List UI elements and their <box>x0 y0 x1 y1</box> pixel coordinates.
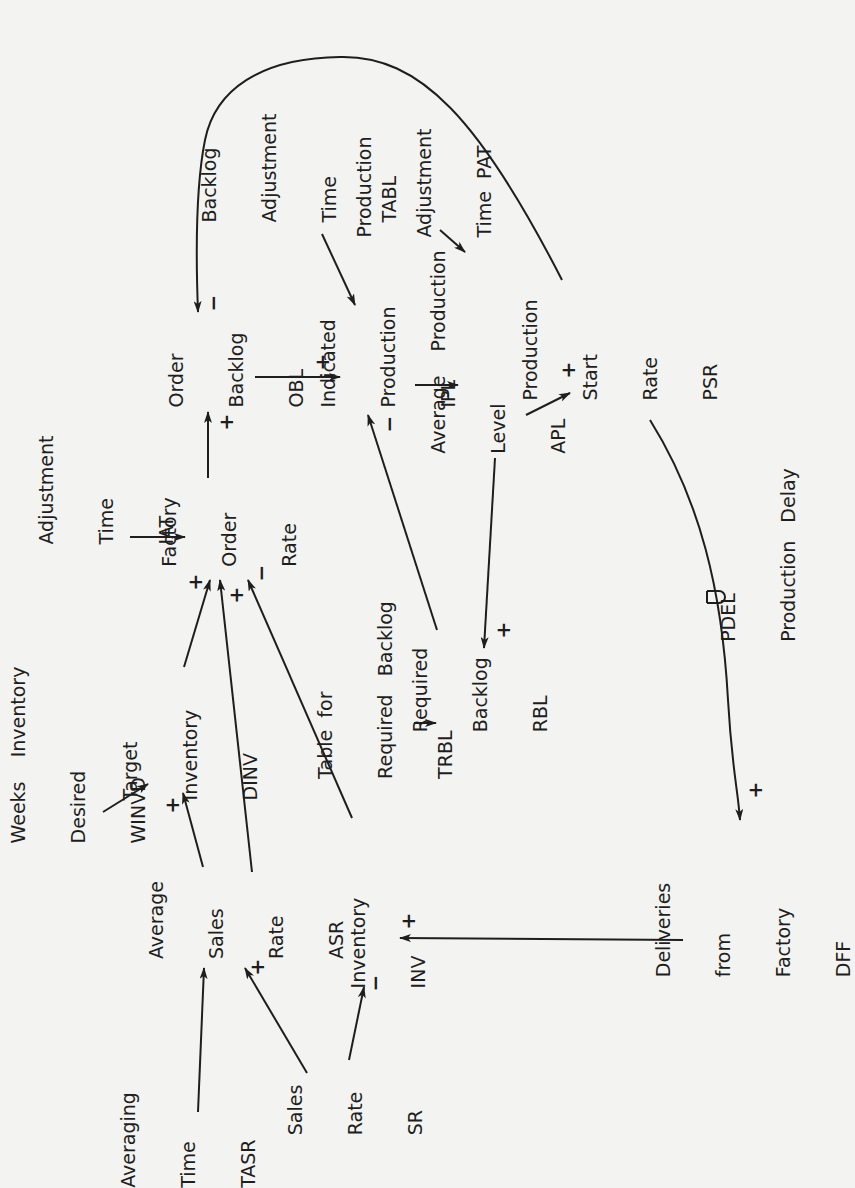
arrow-asr-to-dinv <box>183 793 203 867</box>
sign-inv-to-for: − <box>251 565 271 582</box>
node-line: INV <box>408 898 428 989</box>
node-line: from <box>713 883 733 978</box>
node-line: Adjustment <box>36 435 56 544</box>
node-line: PSR <box>700 299 720 400</box>
sign-rbl-to-ipl: − <box>379 416 399 433</box>
node-line: Target <box>120 710 140 801</box>
sign-dinv-to-for: + <box>185 574 205 591</box>
node-line: RBL <box>530 648 550 733</box>
node-required-backlog-rbl: Required Backlog RBL <box>370 648 570 733</box>
node-line: Rate <box>640 299 660 400</box>
node-line: Order <box>166 332 186 407</box>
node-line: DFF <box>833 883 853 978</box>
node-line: Time <box>96 435 116 544</box>
sign-asr-to-for: + <box>226 587 246 604</box>
node-line: Production <box>520 299 540 400</box>
node-line: PDEL <box>718 468 738 642</box>
sign-sr-to-inv: − <box>365 975 385 992</box>
node-line: Rate <box>279 497 299 566</box>
node-line: Start <box>580 299 600 400</box>
sign-obl-to-ipl: + <box>312 354 332 371</box>
node-line: Required <box>410 648 430 733</box>
node-line: Average <box>146 881 166 959</box>
sign-asr-to-dinv: + <box>162 797 182 814</box>
node-line: Factory <box>159 497 179 566</box>
sign-for-to-obl: + <box>216 414 236 431</box>
arrow-sr-to-asr <box>245 968 307 1073</box>
node-line: Backlog <box>470 648 490 733</box>
node-line: Rate <box>345 1085 365 1136</box>
node-line: Sales <box>206 881 226 959</box>
node-line: Rate <box>266 881 286 959</box>
node-production-start-rate-psr: Production Start Rate PSR <box>480 299 740 400</box>
arrow-tabl-to-ipl <box>322 234 355 305</box>
node-line: Average Production <box>428 250 448 453</box>
node-line: DINV <box>240 710 260 801</box>
arrow-dinv-to-factory-order-rate <box>184 580 210 667</box>
node-line: Production <box>354 128 374 237</box>
node-line: Weeks Inventory <box>8 667 28 844</box>
node-line: Sales <box>285 1085 305 1136</box>
node-production-delay-pdel: PDEL Production Delay <box>678 468 818 642</box>
node-line: Time PAT <box>474 128 494 237</box>
sign-apl-to-rbl: + <box>493 622 513 639</box>
sign-psr-to-dff: + <box>745 782 765 799</box>
sign-apl-to-psr: + <box>558 362 578 379</box>
node-line: Adjustment <box>414 128 434 237</box>
node-line: Averaging <box>118 1092 138 1188</box>
node-line: Production Delay <box>778 468 798 642</box>
node-line: Table for <box>315 601 335 779</box>
node-line: Backlog <box>199 113 219 222</box>
node-line: Inventory <box>180 710 200 801</box>
arrow-tasr-to-asr <box>198 968 204 1112</box>
node-line: Adjustment <box>259 113 279 222</box>
node-line: Order <box>219 497 239 566</box>
arrow-apl-to-rbl <box>484 458 495 648</box>
node-line: Deliveries <box>653 883 673 978</box>
node-line: Factory <box>773 883 793 978</box>
node-factory-order-rate: Factory Order Rate <box>119 497 319 566</box>
node-sales-rate-sr: Sales Rate SR <box>245 1085 445 1136</box>
node-target-inventory-dinv: Target Inventory DINV <box>80 710 280 801</box>
node-line: Time <box>178 1092 198 1188</box>
node-production-adjustment-time-pat: Production Adjustment Time PAT <box>314 128 514 237</box>
sign-sr-to-asr: + <box>247 959 267 976</box>
sign-dff-to-inv: + <box>398 913 418 930</box>
node-deliveries-from-factory-dff: Deliveries from Factory DFF <box>613 883 855 978</box>
node-line: Backlog <box>226 332 246 407</box>
node-line: SR <box>405 1085 425 1136</box>
sign-psr-to-obl: − <box>203 295 223 312</box>
arrow-sr-to-inv <box>349 987 364 1060</box>
